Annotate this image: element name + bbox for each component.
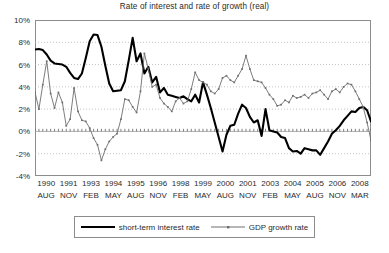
data-point-marker [288, 102, 290, 104]
x-axis-tick-label: 2004MAY [284, 178, 302, 201]
chart-container: Rate of interest and rate of growth (rea… [0, 0, 389, 253]
plot-svg [35, 20, 371, 176]
data-point-marker [89, 127, 91, 129]
data-point-marker [292, 95, 294, 97]
x-tick-year: 2008 [351, 178, 369, 190]
data-point-marker [335, 88, 337, 90]
data-point-marker [206, 84, 208, 86]
data-point-marker [323, 94, 325, 96]
legend-label-gdp-growth: GDP growth rate [249, 223, 308, 232]
data-point-marker [222, 77, 224, 79]
data-point-marker [159, 97, 161, 99]
data-point-marker [124, 98, 126, 100]
data-point-marker [120, 118, 122, 120]
x-axis-tick-label: 2003FEB [261, 178, 279, 201]
series-line-gdp-growth [35, 53, 371, 160]
data-point-marker [175, 100, 177, 102]
data-point-marker [151, 86, 153, 88]
x-tick-month: NOV [60, 190, 78, 202]
x-tick-month: AUG [37, 190, 55, 202]
data-point-marker [163, 103, 165, 105]
data-point-marker [132, 106, 134, 108]
legend-swatch-interest-rate [81, 223, 115, 231]
data-point-marker [257, 80, 259, 82]
data-point-marker [58, 92, 60, 94]
series-lines [35, 34, 371, 161]
data-point-marker [284, 99, 286, 101]
data-point-marker [327, 98, 329, 100]
x-tick-month: AUG [216, 190, 234, 202]
data-point-marker [128, 99, 130, 101]
data-point-marker [46, 60, 48, 62]
x-axis-tick-label: 1990AUG [37, 178, 55, 201]
data-point-marker [187, 100, 189, 102]
data-point-marker [112, 136, 114, 138]
x-axis-tick-label: 1993FEB [82, 178, 100, 201]
data-point-marker [61, 102, 63, 104]
x-tick-month: FEB [172, 190, 190, 202]
x-axis-tick-label: 1991NOV [60, 178, 78, 201]
data-point-marker [183, 103, 185, 105]
x-tick-year: 1999 [194, 178, 212, 190]
data-point-marker [35, 92, 36, 94]
x-tick-month: AUG [306, 190, 324, 202]
x-axis-labels: 1990AUG1991NOV1993FEB1994MAY1995AUG1996N… [0, 178, 389, 204]
x-axis-tick-label: 2006NOV [328, 178, 346, 201]
data-point-marker [319, 89, 321, 91]
data-point-marker [265, 87, 267, 89]
x-tick-month: FEB [82, 190, 100, 202]
legend-label-interest-rate: short-term interest rate [119, 223, 200, 232]
data-point-marker [198, 79, 200, 81]
data-point-marker [331, 90, 333, 92]
data-point-marker [85, 121, 87, 123]
x-axis-tick-label: 2001NOV [239, 178, 257, 201]
data-point-marker [351, 84, 353, 86]
data-point-marker [54, 107, 56, 109]
data-point-marker [147, 68, 149, 70]
x-axis-tick-label: 1999MAY [194, 178, 212, 201]
data-point-marker [65, 125, 67, 127]
data-point-marker [233, 82, 235, 84]
data-point-marker [144, 53, 146, 55]
data-point-marker [202, 82, 204, 84]
data-point-marker [179, 97, 181, 99]
x-tick-month: NOV [149, 190, 167, 202]
data-point-marker [355, 90, 357, 92]
data-point-marker [253, 79, 255, 81]
data-point-marker [171, 111, 173, 113]
x-tick-year: 1991 [60, 178, 78, 190]
y-axis-tick-label: 2% [18, 105, 30, 114]
data-point-marker [241, 68, 243, 70]
x-tick-year: 2004 [284, 178, 302, 190]
chart-title: Rate of interest and rate of growth (rea… [0, 2, 389, 11]
data-point-marker [237, 75, 239, 77]
x-axis-tick-label: 2008MAR [351, 178, 369, 201]
data-point-marker [167, 106, 169, 108]
x-tick-year: 1990 [37, 178, 55, 190]
data-point-marker [304, 94, 306, 96]
x-axis-tick-label: 2005AUG [306, 178, 324, 201]
x-tick-year: 1996 [149, 178, 167, 190]
data-point-marker [42, 84, 44, 86]
y-axis-tick-label: 10% [14, 16, 30, 25]
x-tick-year: 1998 [172, 178, 190, 190]
data-point-marker [104, 148, 106, 150]
y-axis-tick-label: 0% [18, 127, 30, 136]
data-point-marker [214, 93, 216, 95]
x-axis-tick-label: 1998FEB [172, 178, 190, 201]
data-point-marker [73, 87, 75, 89]
data-point-marker [93, 137, 95, 139]
series-line-interest-rate [35, 34, 371, 154]
x-tick-month: MAR [351, 190, 369, 202]
data-point-marker [339, 92, 341, 94]
x-tick-month: MAY [194, 190, 212, 202]
x-tick-month: NOV [239, 190, 257, 202]
x-tick-year: 1994 [104, 178, 122, 190]
x-tick-year: 1995 [127, 178, 145, 190]
x-tick-year: 2005 [306, 178, 324, 190]
data-point-marker [116, 133, 118, 135]
data-point-marker [358, 98, 360, 100]
y-axis-labels: 10%8%6%4%2%0%-2%-4% [0, 20, 33, 176]
x-tick-month: AUG [127, 190, 145, 202]
data-point-marker [101, 160, 103, 162]
